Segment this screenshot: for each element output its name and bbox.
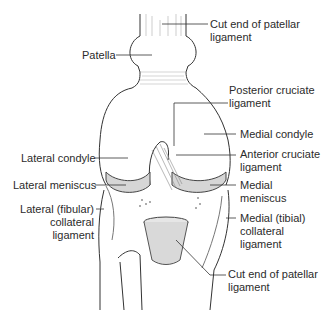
label-medial-condyle: Medial condyle (240, 128, 313, 141)
fibula-outline (99, 190, 104, 310)
femur-lateral-outline (99, 88, 132, 185)
patella-outline (130, 36, 140, 88)
label-cut-end-patellar-ligament-bottom: Cut end of patellar ligament (228, 268, 318, 294)
label-anterior-cruciate-ligament: Anterior cruciate ligament (240, 148, 320, 174)
label-patella: Patella (82, 49, 116, 62)
label-medial-meniscus: Medial meniscus (240, 179, 286, 205)
label-lateral-fibular-collateral-ligament: Lateral (fibular) collateral ligament (20, 203, 94, 242)
label-cut-end-patellar-ligament-top: Cut end of patellar ligament (210, 18, 300, 44)
medial-meniscus-shape (172, 172, 226, 192)
label-posterior-cruciate-ligament: Posterior cruciate ligament (229, 84, 315, 110)
tibia-medial-outline (210, 190, 229, 310)
lateral-meniscus-shape (106, 172, 150, 192)
label-medial-tibial-collateral-ligament: Medial (tibial) collateral ligament (240, 212, 305, 251)
label-lateral-condyle: Lateral condyle (21, 152, 96, 165)
patellar-ligament-stump (144, 222, 188, 265)
label-lateral-meniscus: Lateral meniscus (13, 179, 96, 192)
femur-medial-outline (196, 88, 230, 185)
